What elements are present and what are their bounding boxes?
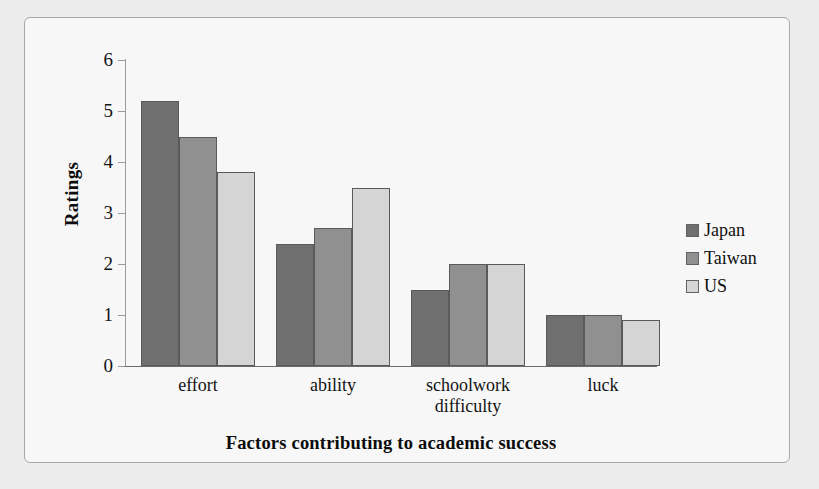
bar-us-luck bbox=[622, 320, 660, 366]
bar-japan-ability bbox=[276, 244, 314, 366]
x-axis-category-label: luck bbox=[523, 375, 683, 396]
y-axis-tick bbox=[118, 264, 125, 265]
y-axis-tick-label: 6 bbox=[73, 50, 113, 69]
bar-group bbox=[411, 60, 525, 366]
y-axis-tick bbox=[118, 60, 125, 61]
legend-label: Taiwan bbox=[704, 249, 757, 267]
y-axis-tick-label: 1 bbox=[73, 305, 113, 324]
legend-label: US bbox=[704, 277, 727, 295]
plot-area bbox=[126, 60, 654, 366]
bar-group bbox=[546, 60, 660, 366]
legend-item-taiwan[interactable]: Taiwan bbox=[686, 244, 806, 272]
legend-swatch-icon bbox=[686, 252, 699, 265]
y-axis-tick bbox=[118, 315, 125, 316]
y-axis-tick-label: 5 bbox=[73, 101, 113, 120]
bar-us-effort bbox=[217, 172, 255, 366]
y-axis-tick bbox=[118, 162, 125, 163]
x-axis-label-line: luck bbox=[523, 375, 683, 396]
bar-group bbox=[276, 60, 390, 366]
bar-japan-effort bbox=[141, 101, 179, 366]
legend: JapanTaiwanUS bbox=[686, 216, 806, 300]
legend-swatch-icon bbox=[686, 280, 699, 293]
chart-frame: 0123456 Ratings effortabilityschoolworkd… bbox=[24, 17, 790, 463]
bar-taiwan-luck bbox=[584, 315, 622, 366]
bar-japan-luck bbox=[546, 315, 584, 366]
bar-taiwan-effort bbox=[179, 137, 217, 367]
legend-swatch-icon bbox=[686, 224, 699, 237]
y-axis-tick bbox=[118, 213, 125, 214]
legend-item-japan[interactable]: Japan bbox=[686, 216, 806, 244]
bar-group bbox=[141, 60, 255, 366]
y-axis-tick bbox=[118, 366, 125, 367]
legend-item-us[interactable]: US bbox=[686, 272, 806, 300]
y-axis-tick-label: 0 bbox=[73, 356, 113, 375]
x-axis-label-line: difficulty bbox=[388, 396, 548, 417]
legend-label: Japan bbox=[704, 221, 745, 239]
bar-taiwan-ability bbox=[314, 228, 352, 366]
x-axis-line bbox=[125, 366, 657, 367]
x-axis-title: Factors contributing to academic success bbox=[126, 433, 656, 454]
y-axis-title: Ratings bbox=[61, 124, 83, 264]
bar-us-schoolwork-difficulty bbox=[487, 264, 525, 366]
y-axis-tick bbox=[118, 111, 125, 112]
figure: 0123456 Ratings effortabilityschoolworkd… bbox=[0, 0, 819, 489]
bar-us-ability bbox=[352, 188, 390, 367]
bar-japan-schoolwork-difficulty bbox=[411, 290, 449, 367]
bar-taiwan-schoolwork-difficulty bbox=[449, 264, 487, 366]
